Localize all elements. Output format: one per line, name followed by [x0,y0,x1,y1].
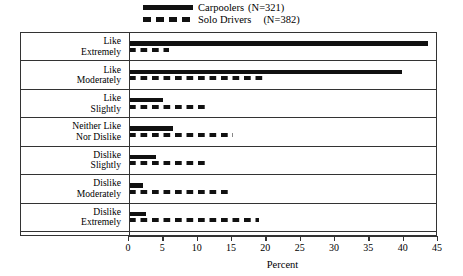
bar-group-like-moderately [129,61,436,88]
x-axis-tick [231,236,232,241]
x-axis-title: Percent [0,259,463,270]
chart-row-like-extremely: Like Extremely [21,33,436,61]
category-label-line2: Moderately [77,189,121,200]
chart-row-like-slightly: Like Slightly [21,90,436,118]
bar-carpoolers [129,183,143,187]
bar-carpoolers [129,41,428,45]
legend-swatch-solid-icon [143,5,193,10]
legend-count-solo-drivers: (N=382) [263,14,299,25]
x-axis-tick [334,236,335,241]
legend-item-solo-drivers: Solo Drivers (N=382) [143,13,300,26]
bar-group-dislike-slightly [129,147,436,174]
bar-solo-drivers [129,105,205,109]
x-axis-title-text: Percent [267,259,299,270]
bar-group-dislike-moderately [129,175,436,202]
x-axis-tick [403,236,404,241]
chart-row-dislike-moderately: Dislike Moderately [21,175,436,203]
chart-row-dislike-extremely: Dislike Extremely [21,204,436,232]
x-axis-tick [300,236,301,241]
x-axis-tick [128,236,129,241]
x-axis-tick-label: 10 [192,242,202,253]
chart-legend: Carpoolers (N=321) Solo Drivers (N=382) [0,0,463,28]
legend-label-solo-drivers: Solo Drivers [198,14,251,25]
chart-row-neither-like-nor-dislike: Neither Like Nor Dislike [21,118,436,146]
x-axis-tick-label: 35 [363,242,373,253]
x-axis-tick-label: 45 [432,242,442,253]
legend-label-carpoolers: Carpoolers [198,2,244,13]
chart-plot-area: Like Extremely Like Moderately Like Slig… [20,32,437,236]
category-label-line2: Nor Dislike [76,132,121,143]
x-axis-tick [265,236,266,241]
bar-solo-drivers [129,218,259,222]
category-label-dislike-extremely: Dislike Extremely [21,204,125,231]
bar-group-like-slightly [129,90,436,117]
category-label-line2: Extremely [81,47,121,58]
bar-solo-drivers [129,76,266,80]
category-label-like-slightly: Like Slightly [21,90,125,117]
category-label-neither-like-nor-dislike: Neither Like Nor Dislike [21,118,125,145]
bar-carpoolers [129,70,402,74]
category-label-dislike-slightly: Dislike Slightly [21,147,125,174]
bar-carpoolers [129,98,163,102]
x-axis-tick-label: 30 [329,242,339,253]
bar-carpoolers [129,155,156,159]
category-label-like-moderately: Like Moderately [21,61,125,88]
bar-group-dislike-extremely [129,204,436,231]
x-axis-tick [197,236,198,241]
legend-swatch-dashed-icon [143,17,193,22]
x-axis-tick [437,236,438,241]
chart-row-like-moderately: Like Moderately [21,61,436,89]
x-axis-tick-label: 25 [295,242,305,253]
x-axis-tick-label: 0 [126,242,131,253]
category-label-dislike-moderately: Dislike Moderately [21,175,125,202]
x-axis-tick-label: 20 [260,242,270,253]
y-axis-zero-line [129,33,130,235]
category-label-line1: Like [103,93,121,104]
category-label-line2: Extremely [81,217,121,228]
bar-group-neither-like-nor-dislike [129,118,436,145]
bar-solo-drivers [129,161,206,165]
x-axis-tick [368,236,369,241]
bar-solo-drivers [129,133,233,137]
x-axis: 051015202530354045 [128,236,437,237]
category-label-like-extremely: Like Extremely [21,33,125,60]
bar-carpoolers [129,126,173,130]
category-label-line2: Moderately [77,75,121,86]
x-axis-tick-label: 15 [226,242,236,253]
bar-solo-drivers [129,48,169,52]
category-label-line2: Slightly [91,104,121,115]
legend-count-carpoolers: (N=321) [248,2,284,13]
bar-carpoolers [129,212,146,216]
category-label-line2: Slightly [91,160,121,171]
x-axis-tick-label: 5 [160,242,165,253]
bar-group-like-extremely [129,33,436,60]
bar-solo-drivers [129,190,230,194]
x-axis-tick-label: 40 [398,242,408,253]
chart-row-dislike-slightly: Dislike Slightly [21,147,436,175]
x-axis-tick [162,236,163,241]
